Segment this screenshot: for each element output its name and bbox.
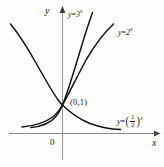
paren-close: ) — [136, 114, 139, 127]
curve-label-3x-exponent: x — [80, 8, 82, 14]
curve-label-one-half-to-the-x: y=(12)x — [117, 113, 143, 130]
curve-y-equals-one-half-to-the-x — [11, 24, 121, 130]
curve-y-equals-2-to-the-x — [22, 24, 114, 127]
graph-canvas — [0, 0, 164, 167]
x-axis-arrow — [154, 131, 161, 137]
curve-label-2-to-the-x: y=2x — [118, 27, 133, 37]
fraction-numerator: 1 — [130, 114, 136, 121]
origin-label: 0 — [50, 138, 55, 147]
x-axis-label: x — [152, 138, 156, 148]
exponential-functions-figure: y x 0 (0,1) y=3x y=2x y=(12)x — [0, 0, 164, 167]
curve-label-3-to-the-x: y=3x — [68, 9, 83, 19]
fraction-one-half: 12 — [130, 114, 136, 129]
y-axis-arrow — [60, 6, 66, 13]
fraction-denominator: 2 — [130, 121, 136, 129]
y-axis-label: y — [45, 6, 49, 16]
curve-label-half-equals: = — [121, 117, 126, 126]
curve-label-2x-exponent: x — [130, 26, 132, 32]
point-label-zero-one: (0,1) — [70, 98, 87, 107]
paren-open: ( — [126, 114, 129, 127]
curve-label-half-exponent: x — [140, 115, 142, 121]
